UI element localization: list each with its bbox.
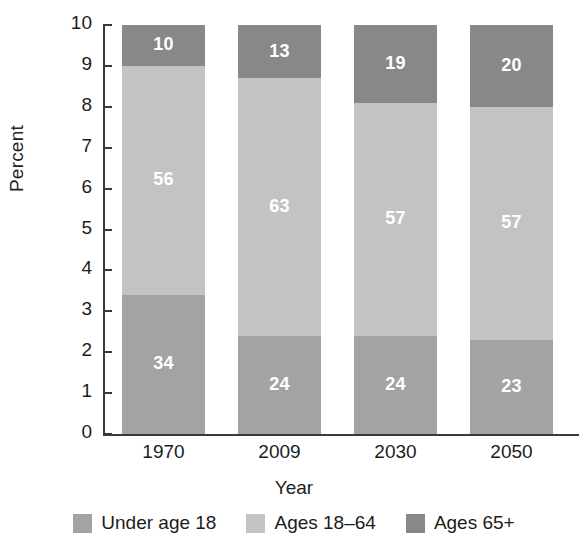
legend-label: Under age 18: [101, 512, 216, 534]
y-axis-tick: [103, 24, 112, 26]
bar-segment-value: 34: [122, 353, 205, 374]
legend-swatch-icon: [406, 514, 425, 533]
y-axis-tick-label: 0: [52, 421, 92, 443]
legend-swatch-icon: [73, 514, 92, 533]
legend-label: Ages 65+: [434, 512, 515, 534]
bar-segment[interactable]: 13: [238, 25, 321, 78]
bar-segment-value: 13: [238, 41, 321, 62]
bar-segment[interactable]: 57: [470, 107, 553, 340]
bar-1970[interactable]: 345610: [122, 25, 205, 434]
y-axis-tick-label: 2: [52, 339, 92, 361]
bar-segment-value: 56: [122, 169, 205, 190]
x-axis-title: Year: [0, 477, 588, 499]
legend-item[interactable]: Ages 65+: [406, 512, 515, 534]
x-axis-tick-label-2050: 2050: [457, 441, 567, 463]
y-axis-title: Percent: [6, 52, 30, 192]
bar-segment[interactable]: 57: [354, 103, 437, 336]
y-axis-tick: [103, 188, 112, 190]
y-axis-tick-label: 5: [52, 217, 92, 239]
y-axis-tick-label: 10: [52, 12, 92, 34]
bar-segment-value: 57: [354, 208, 437, 229]
bar-segment[interactable]: 34: [122, 295, 205, 434]
bar-segment[interactable]: 56: [122, 66, 205, 295]
bar-segment-value: 57: [470, 212, 553, 233]
stacked-bar-chart: Percent 012345678910 3456102463132457192…: [0, 0, 588, 551]
y-axis-tick-label: 3: [52, 298, 92, 320]
x-axis-line: [103, 434, 579, 436]
x-axis-tick-label-1970: 1970: [109, 441, 219, 463]
bar-segment-value: 24: [238, 374, 321, 395]
bar-2030[interactable]: 245719: [354, 25, 437, 434]
legend-swatch-icon: [246, 514, 265, 533]
chart-legend: Under age 18Ages 18–64Ages 65+: [0, 512, 588, 534]
legend-item[interactable]: Ages 18–64: [246, 512, 375, 534]
y-axis-tick: [103, 147, 112, 149]
y-axis-tick-label: 7: [52, 135, 92, 157]
bar-segment[interactable]: 23: [470, 340, 553, 434]
bar-segment-value: 10: [122, 34, 205, 55]
y-axis-tick: [103, 65, 112, 67]
y-axis-tick: [103, 351, 112, 353]
legend-item[interactable]: Under age 18: [73, 512, 216, 534]
bar-segment-value: 63: [238, 196, 321, 217]
bar-segment[interactable]: 24: [238, 336, 321, 434]
y-axis-tick: [103, 310, 112, 312]
bar-segment[interactable]: 20: [470, 25, 553, 107]
bar-segment-value: 23: [470, 376, 553, 397]
bar-segment[interactable]: 24: [354, 336, 437, 434]
y-axis-tick: [103, 392, 112, 394]
y-axis-tick: [103, 269, 112, 271]
x-axis-tick-label-2009: 2009: [225, 441, 335, 463]
bar-segment[interactable]: 63: [238, 78, 321, 336]
bar-segment-value: 20: [470, 55, 553, 76]
legend-label: Ages 18–64: [274, 512, 375, 534]
bar-2050[interactable]: 235720: [470, 25, 553, 434]
y-axis-tick-label: 1: [52, 380, 92, 402]
bar-segment-value: 19: [354, 53, 437, 74]
bar-segment[interactable]: 10: [122, 25, 205, 66]
x-axis-tick-label-2030: 2030: [341, 441, 451, 463]
y-axis-tick-label: 9: [52, 53, 92, 75]
bar-segment[interactable]: 19: [354, 25, 437, 103]
bar-segment-value: 24: [354, 374, 437, 395]
y-axis-tick-label: 8: [52, 94, 92, 116]
y-axis-tick-label: 4: [52, 257, 92, 279]
y-axis-tick: [103, 106, 112, 108]
y-axis-tick-label: 6: [52, 176, 92, 198]
y-axis-tick: [103, 229, 112, 231]
bar-2009[interactable]: 246313: [238, 25, 321, 434]
